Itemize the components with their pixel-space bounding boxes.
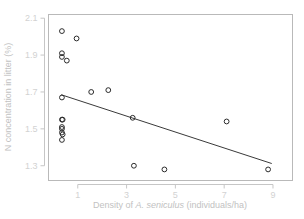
y-tick-label: 1.7 bbox=[25, 87, 38, 97]
chart-figure: 1.31.51.71.92.1 13579 N concentration in… bbox=[0, 0, 304, 219]
x-tick-label: 7 bbox=[222, 190, 227, 200]
x-tick-label: 5 bbox=[173, 190, 178, 200]
x-axis-title-suffix: (individuals/ha) bbox=[184, 200, 247, 210]
figure-background bbox=[0, 0, 304, 219]
x-tick-label: 1 bbox=[75, 190, 80, 200]
y-axis-title: N concentration in litter (%) bbox=[3, 43, 13, 152]
x-tick-label: 3 bbox=[124, 190, 129, 200]
y-tick-label: 1.9 bbox=[25, 50, 38, 60]
x-tick-label: 9 bbox=[270, 190, 275, 200]
scatter-plot: 1.31.51.71.92.1 13579 N concentration in… bbox=[0, 0, 304, 219]
x-axis-title-species: A. seniculus bbox=[134, 200, 184, 210]
x-axis-title-prefix: Density of bbox=[93, 200, 136, 210]
y-tick-label: 1.3 bbox=[25, 161, 38, 171]
x-axis-title: Density of A. seniculus (individuals/ha) bbox=[93, 200, 247, 210]
y-tick-label: 1.5 bbox=[25, 124, 38, 134]
y-tick-label: 2.1 bbox=[25, 13, 38, 23]
